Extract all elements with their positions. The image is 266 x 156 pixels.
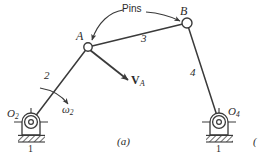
o4-ground-hatch (206, 136, 233, 142)
pivot-o2-label: O2 (7, 108, 19, 121)
ground-label-left: 1 (28, 144, 33, 154)
joint-a-label: A (76, 30, 83, 42)
velocity-vector-arrow (90, 50, 128, 80)
o2-symbol: O (7, 107, 15, 119)
figure-caption: (a) (117, 136, 130, 147)
link-3-label: 3 (141, 33, 147, 44)
o4-symbol: O (228, 105, 236, 117)
pins-leader-to-b (146, 12, 180, 21)
velocity-vector-label: VA (131, 74, 145, 88)
o4-pivot-inner (217, 120, 222, 125)
o2-pivot-inner (29, 120, 34, 125)
joint-b-pin (182, 18, 192, 28)
ground-label-right: 1 (216, 144, 221, 154)
velocity-symbol: V (131, 73, 140, 87)
link-3-coupler (88, 23, 187, 47)
o2-subscript: 2 (15, 112, 19, 121)
neighbor-caption-fragment: ( (253, 136, 257, 147)
omega-subscript: 2 (70, 108, 74, 117)
pivot-o4-label: O4 (228, 106, 240, 119)
omega-symbol: ω (62, 103, 70, 115)
velocity-subscript: A (140, 79, 145, 88)
link-4-label: 4 (190, 67, 196, 78)
joint-a-pin (84, 43, 92, 51)
omega2-label: ω2 (62, 104, 74, 117)
link-2-crank (31, 47, 88, 122)
o2-ground-hatch (18, 136, 45, 142)
pins-leader-to-a (92, 10, 123, 40)
link-2-label: 2 (44, 70, 50, 81)
joint-b-label: B (180, 5, 187, 17)
pins-label: Pins (122, 4, 141, 14)
o4-subscript: 4 (236, 110, 240, 119)
ground-pivot-o2 (14, 108, 48, 142)
omega2-curved-arrow (40, 88, 68, 104)
